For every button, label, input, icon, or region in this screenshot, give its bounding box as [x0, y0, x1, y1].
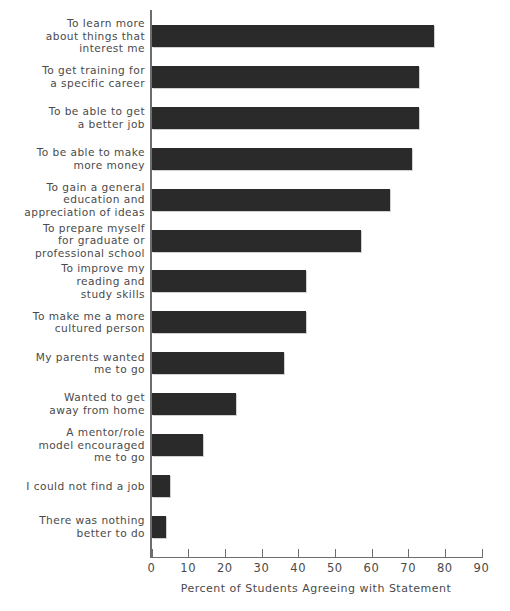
bar [152, 148, 412, 170]
bar-chart: To learn more about things that interest… [0, 0, 510, 611]
x-tick-label: 90 [462, 561, 502, 575]
x-tick [445, 549, 446, 558]
bar-row: To prepare myself for graduate or profes… [0, 221, 510, 262]
bar-row: To make me a more cultured person [0, 302, 510, 343]
x-tick [372, 549, 373, 558]
category-label: There was nothing better to do [0, 514, 145, 539]
x-tick [262, 549, 263, 558]
bar [152, 434, 203, 456]
x-tick [298, 549, 299, 558]
x-tick [482, 549, 483, 558]
bar [152, 107, 420, 129]
bar-row: To be able to make more money [0, 139, 510, 180]
bar-row: A mentor/role model encouraged me to go [0, 425, 510, 466]
x-axis-title: Percent of Students Agreeing with Statem… [150, 582, 482, 595]
x-tick [152, 549, 153, 558]
category-label: To gain a general education and apprecia… [0, 181, 145, 219]
bar [152, 189, 390, 211]
x-tick-label: 30 [242, 561, 282, 575]
bar [152, 270, 306, 292]
x-tick-label: 70 [388, 561, 428, 575]
x-tick-label: 0 [132, 561, 172, 575]
category-label: To make me a more cultured person [0, 310, 145, 335]
category-label: To be able to get a better job [0, 105, 145, 130]
x-axis-line [150, 557, 482, 558]
category-label: To get training for a specific career [0, 64, 145, 89]
category-label: To prepare myself for graduate or profes… [0, 222, 145, 260]
category-label: To be able to make more money [0, 146, 145, 171]
bar-row: To learn more about things that interest… [0, 16, 510, 57]
bar-row: To improve my reading and study skills [0, 261, 510, 302]
bar [152, 25, 434, 47]
bar-row: I could not find a job [0, 466, 510, 507]
bar-row: To get training for a specific career [0, 57, 510, 98]
bar [152, 352, 284, 374]
x-tick [408, 549, 409, 558]
x-tick-label: 50 [315, 561, 355, 575]
category-label: My parents wanted me to go [0, 351, 145, 376]
plot-area: To learn more about things that interest… [0, 0, 510, 611]
category-label: I could not find a job [0, 480, 145, 493]
category-label: To improve my reading and study skills [0, 262, 145, 300]
x-tick [335, 549, 336, 558]
bar-row: Wanted to get away from home [0, 384, 510, 425]
bar [152, 66, 420, 88]
category-label: To learn more about things that interest… [0, 17, 145, 55]
bar [152, 311, 306, 333]
x-tick [188, 549, 189, 558]
bar-row: To gain a general education and apprecia… [0, 180, 510, 221]
bar [152, 393, 236, 415]
bar-row: My parents wanted me to go [0, 343, 510, 384]
category-label: A mentor/role model encouraged me to go [0, 426, 145, 464]
bar [152, 516, 167, 538]
x-tick-label: 80 [425, 561, 465, 575]
x-tick [225, 549, 226, 558]
bar-row: To be able to get a better job [0, 98, 510, 139]
bar-row: There was nothing better to do [0, 507, 510, 548]
x-tick-label: 10 [168, 561, 208, 575]
x-tick-label: 20 [205, 561, 245, 575]
x-tick-label: 40 [278, 561, 318, 575]
bar [152, 230, 361, 252]
category-label: Wanted to get away from home [0, 391, 145, 416]
bar [152, 475, 170, 497]
x-tick-label: 60 [352, 561, 392, 575]
